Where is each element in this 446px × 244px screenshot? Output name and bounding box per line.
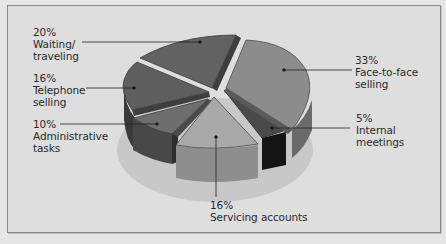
label-servicing: 16% Servicing accounts xyxy=(210,199,307,223)
label-admin: 10% Administrative tasks xyxy=(33,118,108,154)
label-face: 33% Face-to-face selling xyxy=(355,54,418,90)
label-waiting: 20% Waiting/ traveling xyxy=(33,26,79,62)
label-telephone: 16% Telephone selling xyxy=(33,72,85,108)
slice-side-servicing xyxy=(176,145,258,182)
slice-side-internal xyxy=(262,132,286,170)
label-internal: 5% Internal meetings xyxy=(356,112,404,148)
